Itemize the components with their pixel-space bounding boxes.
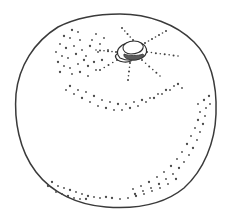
stipple-dot [129,107,131,109]
stipple-dot [202,123,204,125]
stipple-dot [51,181,53,183]
ray-dot [95,49,97,51]
ray-dot [159,53,161,55]
stipple-dot [105,196,107,198]
stipple-dot [190,135,192,137]
stipple-dot [63,35,65,37]
ray-dot [127,33,129,35]
ray-dot [128,75,130,77]
ray-dot [129,36,131,38]
stipple-dot [145,101,147,103]
stipple-dot [61,55,63,57]
stipple-dot [119,198,121,200]
ray-dot [103,67,105,69]
ray-dot [158,34,160,36]
stipple-dot [69,37,71,39]
stipple-dot [77,63,79,65]
stipple-dot [71,73,73,75]
ray-dot [112,62,114,64]
ray-dot [145,62,147,64]
stipple-dot [69,85,71,87]
stipple-dot [101,99,103,101]
stipple-dot [203,99,205,101]
ray-dot [99,69,101,71]
stipple-dot [137,105,139,107]
stipple-dot [95,69,97,71]
stipple-dot [143,193,145,195]
stipple-dot [67,195,69,197]
stipple-dot [97,51,99,53]
stipple-dot [197,103,199,105]
stipple-dot [165,178,167,180]
stipple-dot [135,195,137,197]
ray-dot [164,53,166,55]
stipple-dot [199,131,201,133]
stipple-dot [93,95,95,97]
ray-dot [177,55,179,57]
stipple-dot [148,181,150,183]
stipple-dot [59,43,61,45]
ray-dot [107,50,109,52]
stipple-dot [157,93,159,95]
stipple-dot [95,33,97,35]
stipple-dot [197,119,199,121]
stipple-dot [79,198,81,200]
stipple-dot [65,47,67,49]
ray-dot [124,30,126,32]
stipple-dot [85,91,87,93]
ray-dot [151,38,153,40]
stipple-dot [142,190,144,192]
stipple-dot [85,198,87,200]
stipple-dot [99,43,101,45]
stipple-dot [75,191,77,193]
stipple-dot [89,101,91,103]
stipple-dot [57,61,59,63]
stipple-dot [93,196,95,198]
stipple-dot [81,193,83,195]
stipple-dot [159,187,161,189]
ray-dot [115,51,117,53]
stipple-dot [77,89,79,91]
stipple-dot [103,37,105,39]
stipple-dot [63,187,65,189]
fruit-illustration [0,0,236,220]
stipple-dot [77,31,79,33]
stipple-dot [101,59,103,61]
stipple-dot [67,57,69,59]
stipple-dot [61,193,63,195]
stipple-dot [73,45,75,47]
stipple-dot [85,55,87,57]
stipple-dot [186,143,188,145]
fruit-illustration-canvas [0,0,236,220]
stipple-dot [194,127,196,129]
stipple-dot [57,185,59,187]
stipple-dot [79,71,81,73]
stipple-dot [149,97,151,99]
stipple-dot [117,103,119,105]
stipple-dot [204,115,206,117]
stipple-dot [172,173,174,175]
stipple-dot [111,197,113,199]
stipple-dot [169,89,171,91]
stipple-dot [91,39,93,41]
stipple-dot [173,85,175,87]
stipple-dot [167,183,169,185]
ray-dot [165,30,167,32]
stipple-dot [105,107,107,109]
stipple-dot [156,176,158,178]
stipple-dot [150,187,152,189]
ray-dot [151,52,153,54]
stipple-dot [55,191,57,193]
ray-dot [155,72,157,74]
ray-dot [127,79,129,81]
stipple-dot [109,101,111,103]
stipple-dot [181,87,183,89]
stipple-dot [177,83,179,85]
ray-dot [108,64,110,66]
stipple-dot [208,95,210,97]
stipple-dot [99,197,101,199]
ray-dot [141,59,143,61]
stipple-dot [79,39,81,41]
ray-dot [168,54,170,56]
stipple-dot [69,67,71,69]
